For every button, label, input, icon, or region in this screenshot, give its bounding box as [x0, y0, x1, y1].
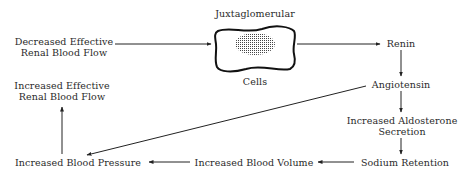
- node-aldosterone: Increased Aldosterone Secretion: [344, 115, 460, 137]
- node-angiotensin: Angiotensin: [366, 79, 436, 90]
- node-label-line: Secretion: [344, 126, 460, 137]
- node-jg-bottom-label: Cells: [230, 76, 280, 87]
- node-blood-pressure: Increased Blood Pressure: [10, 157, 146, 168]
- node-increased-flow: Increased Effective Renal Blood Flow: [8, 80, 116, 102]
- node-jg-top-label: Juxtaglomerular: [207, 8, 303, 19]
- node-blood-volume: Increased Blood Volume: [190, 157, 318, 168]
- node-label-line: Decreased Effective: [8, 36, 120, 47]
- node-sodium-retention: Sodium Retention: [357, 157, 453, 168]
- node-label-line: Renal Blood Flow: [8, 91, 116, 102]
- node-label-line: Increased Aldosterone: [344, 115, 460, 126]
- cell-nucleus: [235, 33, 275, 55]
- node-renin: Renin: [383, 38, 419, 49]
- node-label-line: Renal Blood Flow: [8, 47, 120, 58]
- arrow-angiotensin-to-pressure: [87, 86, 366, 155]
- node-label-line: Increased Effective: [8, 80, 116, 91]
- node-decreased-flow: Decreased Effective Renal Blood Flow: [8, 36, 120, 58]
